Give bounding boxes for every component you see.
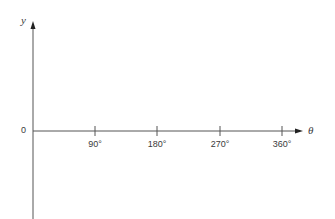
tick-label-180: 180°: [148, 140, 167, 149]
y-axis-arrowhead: [31, 21, 36, 29]
tick-label-360: 360°: [273, 140, 292, 149]
axes-canvas: [0, 0, 335, 219]
origin-label: 0: [21, 126, 26, 135]
y-axis-label: y: [21, 15, 26, 26]
x-axis-arrowhead: [295, 129, 303, 134]
tick-label-270: 270°: [211, 140, 230, 149]
tick-label-90: 90°: [88, 140, 102, 149]
x-axis-label: θ: [308, 125, 313, 136]
